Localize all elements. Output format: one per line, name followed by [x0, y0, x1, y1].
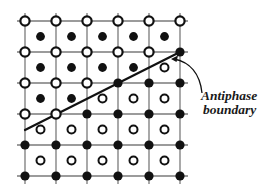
filled-atom-icon: [113, 171, 122, 180]
filled-atom-icon: [175, 140, 184, 149]
open-atom-icon: [161, 64, 169, 72]
annotation-label-line2: boundary: [203, 103, 256, 117]
filled-atom-icon: [175, 78, 184, 87]
open-atom-icon: [20, 109, 29, 118]
filled-atom-icon: [20, 140, 29, 149]
filled-atom-icon: [129, 63, 138, 72]
open-atom-icon: [130, 157, 138, 165]
annotation-label-line1: Antiphase: [201, 89, 257, 103]
filled-atom-icon: [36, 63, 45, 72]
open-atom-icon: [161, 157, 169, 165]
filled-atom-icon: [144, 171, 153, 180]
open-atom-icon: [113, 47, 122, 56]
filled-atom-icon: [67, 32, 76, 41]
open-atom-icon: [82, 16, 91, 25]
filled-atom-icon: [113, 109, 122, 118]
open-atom-icon: [130, 95, 138, 103]
open-atom-icon: [51, 78, 60, 87]
open-atom-icon: [82, 47, 91, 56]
filled-atom-icon: [98, 63, 107, 72]
filled-atom-icon: [113, 78, 122, 87]
filled-atom-icon: [98, 32, 107, 41]
filled-atom-icon: [144, 109, 153, 118]
filled-atom-icon: [144, 140, 153, 149]
filled-atom-icon: [175, 171, 184, 180]
open-atom-icon: [51, 47, 60, 56]
filled-atom-icon: [36, 32, 45, 41]
open-atom-icon: [175, 16, 184, 25]
filled-atom-icon: [67, 94, 76, 103]
open-atom-icon: [37, 157, 45, 165]
filled-atom-icon: [67, 63, 76, 72]
open-atom-icon: [99, 157, 107, 165]
filled-atom-icon: [175, 109, 184, 118]
filled-atom-icon: [160, 32, 169, 41]
filled-atom-icon: [51, 171, 60, 180]
open-atom-icon: [37, 126, 45, 134]
open-atom-icon: [99, 95, 107, 103]
open-atom-icon: [144, 16, 153, 25]
filled-atom-icon: [51, 140, 60, 149]
filled-atom-icon: [36, 94, 45, 103]
open-atom-icon: [20, 78, 29, 87]
open-atom-icon: [161, 126, 169, 134]
open-atom-icon: [161, 95, 169, 103]
filled-atom-icon: [82, 140, 91, 149]
open-atom-icon: [82, 78, 91, 87]
open-atom-icon: [20, 16, 29, 25]
open-atom-icon: [51, 16, 60, 25]
filled-atom-icon: [82, 171, 91, 180]
open-atom-icon: [130, 126, 138, 134]
open-atom-icon: [113, 16, 122, 25]
open-atom-icon: [51, 109, 60, 118]
open-atom-icon: [68, 157, 76, 165]
open-atom-icon: [20, 47, 29, 56]
annotation-arrow: [171, 56, 202, 94]
open-atom-icon: [144, 47, 153, 56]
filled-atom-icon: [113, 140, 122, 149]
open-atom-icon: [68, 126, 76, 134]
filled-atom-icon: [82, 109, 91, 118]
filled-atom-icon: [20, 171, 29, 180]
filled-atom-icon: [129, 32, 138, 41]
filled-atom-icon: [175, 47, 184, 56]
lattice-sites: [20, 16, 184, 180]
filled-atom-icon: [144, 78, 153, 87]
open-atom-icon: [99, 126, 107, 134]
